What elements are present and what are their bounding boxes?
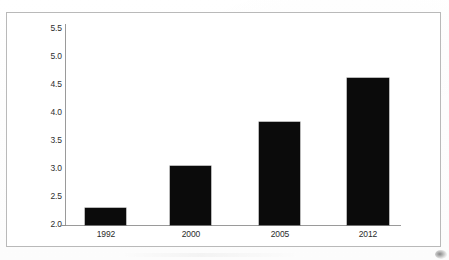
x-axis-line <box>64 225 401 226</box>
x-tick-label-2005: 2005 <box>254 229 306 240</box>
y-tick-label: 3.5 <box>36 136 62 145</box>
bar-2000[interactable] <box>170 166 211 225</box>
y-axis-line <box>65 24 66 226</box>
bar-2005[interactable] <box>259 122 300 225</box>
scan-smudge-corner <box>435 250 447 259</box>
y-tick-label: 3.0 <box>36 164 62 173</box>
bar-chart-plot-area: 5.5 5.0 4.5 4.0 3.5 3.0 2.5 2.0 1992 200… <box>0 0 449 260</box>
bar-2012[interactable] <box>347 78 389 225</box>
y-tick-label: 5.5 <box>36 24 62 33</box>
x-tick-label-1992: 1992 <box>80 229 132 240</box>
y-tick-label: 2.5 <box>36 192 62 201</box>
y-axis-baseline-tick <box>60 225 66 226</box>
y-tick-label: 4.0 <box>36 108 62 117</box>
bar-1992[interactable] <box>85 208 126 225</box>
y-tick-label: 2.0 <box>36 220 62 229</box>
y-axis-tick-labels: 5.5 5.0 4.5 4.0 3.5 3.0 2.5 2.0 <box>36 0 62 260</box>
y-tick-label: 4.5 <box>36 80 62 89</box>
y-tick-label: 5.0 <box>36 52 62 61</box>
scan-smudge-bottom <box>120 253 300 257</box>
x-tick-label-2012: 2012 <box>342 229 394 240</box>
x-tick-label-2000: 2000 <box>165 229 217 240</box>
